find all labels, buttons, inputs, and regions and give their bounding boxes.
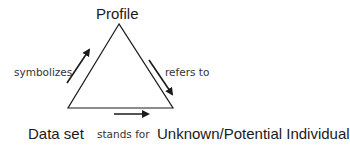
- node-profile: Profile: [96, 6, 139, 21]
- edge-label-stands-for: stands for: [97, 129, 150, 140]
- edge-label-refers-to: refers to: [165, 67, 209, 78]
- node-unknown-potential-individual: Unknown/Potential Individual: [157, 126, 350, 141]
- triangle-outline: [68, 24, 173, 108]
- node-data-set: Data set: [28, 126, 84, 141]
- edge-label-symbolizes: symbolizes: [14, 67, 72, 78]
